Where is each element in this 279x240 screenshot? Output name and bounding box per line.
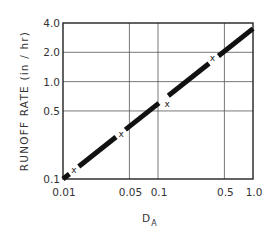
fitted-line-segment xyxy=(218,29,253,56)
x-tick-labels: 0.010.050.10.51.0 xyxy=(52,186,262,198)
y-axis-label: RUNOFF RATE (in / hr) xyxy=(18,31,30,171)
fitted-line-segment xyxy=(79,137,116,166)
fitted-line-segment xyxy=(125,103,158,129)
x-tick-label: 1.0 xyxy=(246,186,263,198)
y-tick-label: 2.0 xyxy=(43,46,60,58)
x-tick-label: 0.05 xyxy=(119,186,142,198)
y-tick-label: 0.5 xyxy=(43,105,60,117)
fitted-line-segment xyxy=(168,63,209,95)
data-point-marker: x xyxy=(210,53,216,63)
x-axis-label: DA xyxy=(142,212,158,228)
y-tick-labels: 0.10.51.02.04.0 xyxy=(43,17,60,185)
data-point-marker: x xyxy=(119,129,125,139)
y-tick-label: 0.1 xyxy=(43,173,60,185)
data-point-marker: x xyxy=(165,99,171,109)
x-axis-label-main: D xyxy=(142,212,151,224)
fitted-line-segment xyxy=(63,174,69,179)
y-tick-label: 4.0 xyxy=(43,17,60,29)
x-tick-label: 0.01 xyxy=(52,186,75,198)
x-tick-label: 0.5 xyxy=(217,186,234,198)
y-tick-label: 1.0 xyxy=(43,76,60,88)
x-tick-label: 0.1 xyxy=(151,186,168,198)
x-axis-label-subscript: A xyxy=(151,219,158,228)
chart: xxxx 0.010.050.10.51.0 0.10.51.02.04.0 R… xyxy=(0,0,279,240)
data-point-marker: x xyxy=(71,165,77,175)
